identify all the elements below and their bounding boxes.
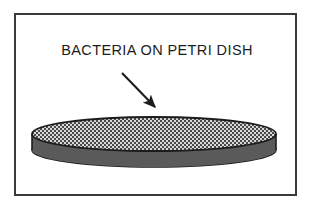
illustration-canvas [0, 0, 314, 212]
figure-root: BACTERIA ON PETRI DISH [0, 0, 314, 212]
pointer-arrow [122, 73, 155, 107]
petri-dish [32, 117, 276, 167]
bacteria-lawn [32, 117, 276, 151]
